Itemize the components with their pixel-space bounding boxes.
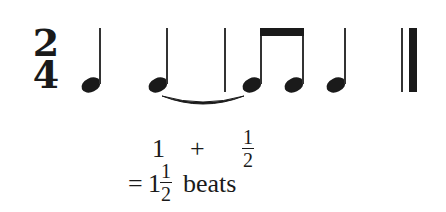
fraction-denominator: 2 xyxy=(161,184,171,204)
beam xyxy=(260,28,304,36)
result-unit-label: beats xyxy=(183,171,236,197)
fraction-numerator: 1 xyxy=(161,161,171,181)
barline-single xyxy=(224,28,226,92)
result-fraction: 1 2 xyxy=(160,161,172,204)
final-barline xyxy=(401,28,417,92)
beamed-eighth-notes xyxy=(240,28,306,96)
equation-plus-operator: + xyxy=(190,136,205,162)
quarter-note-2 xyxy=(146,28,170,96)
equals-sign: = xyxy=(128,171,143,197)
quarter-note-1 xyxy=(79,28,103,96)
equation-term-one: 1 xyxy=(152,136,165,162)
tie-curve xyxy=(162,96,244,104)
time-signature-denominator: 4 xyxy=(30,56,62,94)
fraction-denominator: 2 xyxy=(243,150,253,170)
quarter-note-3 xyxy=(324,28,348,96)
music-notation-figure: 2 4 1 + 1 2 = 1 1 2 beats xyxy=(0,0,446,212)
fraction-numerator: 1 xyxy=(243,127,253,147)
equation-half-fraction: 1 2 xyxy=(242,127,254,170)
